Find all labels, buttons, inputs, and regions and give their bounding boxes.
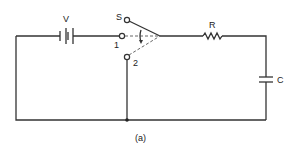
capacitor-label: C xyxy=(277,75,284,85)
switch-position-2-dashed xyxy=(129,36,160,55)
resistor-label: R xyxy=(209,20,216,30)
terminal-1-label: 1 xyxy=(114,40,119,50)
switch-pivot-terminal xyxy=(124,17,129,22)
terminal-2 xyxy=(124,54,129,59)
wire-resistor-to-capacitor xyxy=(222,36,266,77)
junction-dot xyxy=(125,118,129,122)
battery-symbol xyxy=(60,28,73,44)
battery-label: V xyxy=(63,14,69,24)
terminal-2-label: 2 xyxy=(133,58,138,68)
terminal-1 xyxy=(119,33,124,38)
resistor-symbol xyxy=(203,33,222,39)
switch-arrow-head-icon xyxy=(139,40,143,44)
circuit-diagram: V 1 S 2 R C (a) xyxy=(0,0,294,146)
switch-blade xyxy=(129,21,160,36)
figure-caption: (a) xyxy=(135,133,146,143)
switch-label: S xyxy=(116,12,122,22)
wire-bottom xyxy=(16,36,266,120)
